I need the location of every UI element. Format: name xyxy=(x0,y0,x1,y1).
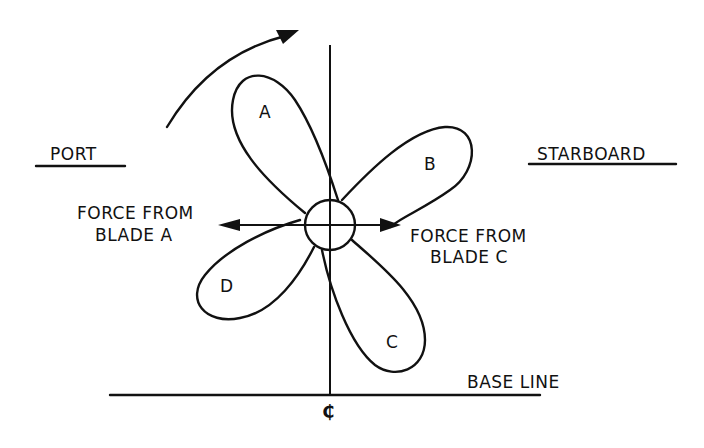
force-c-label-line2: BLADE C xyxy=(430,247,508,267)
force-a-label-line2: BLADE A xyxy=(95,225,173,245)
centerline-symbol: ₵ xyxy=(322,401,335,422)
port-label: PORT xyxy=(50,144,97,164)
propeller-blade-force-diagram: A B C D PORT STARBOARD FORCE FROM BLADE … xyxy=(0,0,704,448)
starboard-label: STARBOARD xyxy=(537,144,646,164)
base-line-label: BASE LINE xyxy=(467,372,560,392)
blade-d xyxy=(197,220,314,319)
force-c-label-line1: FORCE FROM xyxy=(410,226,527,246)
blade-a xyxy=(232,76,338,213)
blade-c xyxy=(322,240,425,372)
blade-d-label: D xyxy=(220,276,233,296)
force-a-arrowhead-icon xyxy=(218,219,240,231)
force-a-label-line1: FORCE FROM xyxy=(77,203,194,223)
blade-a-label: A xyxy=(259,102,271,122)
blade-c-label: C xyxy=(386,332,398,352)
blade-b xyxy=(342,127,472,227)
blade-b-label: B xyxy=(424,154,436,174)
